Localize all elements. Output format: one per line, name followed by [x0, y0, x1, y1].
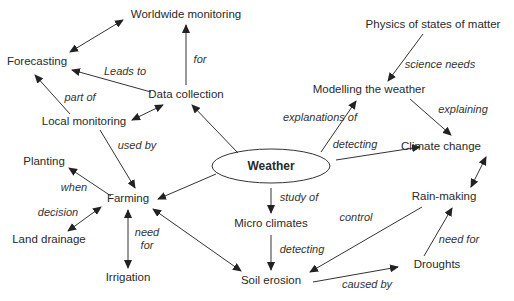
link-label: control	[339, 211, 372, 224]
connector-arrow	[132, 105, 163, 120]
link-label: needfor	[135, 226, 159, 251]
center-node-weather: Weather	[247, 160, 294, 172]
concept-node-climate: Climate change	[401, 141, 481, 153]
link-label: used by	[118, 139, 157, 152]
concept-node-local: Local monitoring	[42, 116, 126, 128]
concept-node-modelling: Modelling the weather	[313, 84, 426, 96]
concept-node-rain: Rain-making	[412, 191, 477, 203]
link-label: need for	[439, 233, 479, 246]
connector-arrow	[471, 157, 486, 187]
concept-node-droughts: Droughts	[414, 259, 461, 271]
connector-arrow	[158, 174, 216, 199]
link-label: when	[61, 181, 87, 194]
concept-node-forecasting: Forecasting	[7, 56, 67, 68]
connector-arrow	[192, 105, 238, 153]
concept-node-worldwide: Worldwide monitoring	[131, 9, 241, 21]
concept-node-soil: Soil erosion	[241, 275, 301, 287]
link-label: caused by	[342, 278, 392, 291]
link-label: study of	[280, 191, 319, 204]
concept-node-irrigation: Irrigation	[106, 272, 151, 284]
link-label: decision	[38, 206, 78, 219]
concept-node-data: Data collection	[148, 89, 223, 101]
concept-node-land: Land drainage	[12, 234, 86, 246]
concept-node-micro: Micro climates	[234, 218, 307, 230]
link-label: part of	[64, 91, 95, 104]
link-label: science needs	[405, 58, 475, 71]
connector-arrow	[70, 20, 123, 52]
link-label: Leads to	[104, 65, 146, 78]
link-label: detecting	[333, 138, 378, 151]
link-label: detecting	[280, 243, 325, 256]
connector-arrow	[153, 209, 241, 271]
concept-node-physics: Physics of states of matter	[366, 19, 501, 31]
link-label: explaining	[438, 103, 488, 116]
link-label: for	[194, 53, 207, 66]
concept-node-farming: Farming	[107, 193, 149, 205]
concept-node-planting: Planting	[23, 156, 65, 168]
link-label: explanations of	[283, 111, 357, 124]
